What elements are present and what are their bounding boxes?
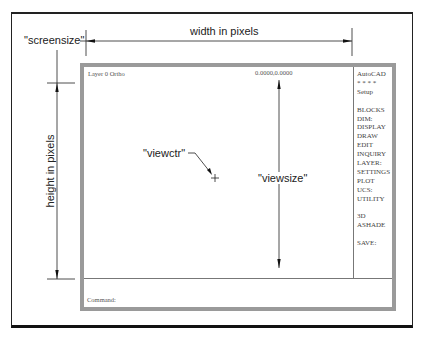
width-label: width in pixels <box>190 25 258 37</box>
dimension-lines <box>0 0 423 338</box>
height-label: height in pixels <box>44 131 56 211</box>
viewsize-label: "viewsize" <box>257 172 308 184</box>
viewctr-label: "viewctr" <box>143 147 185 159</box>
screensize-label: "screensize" <box>24 34 84 46</box>
